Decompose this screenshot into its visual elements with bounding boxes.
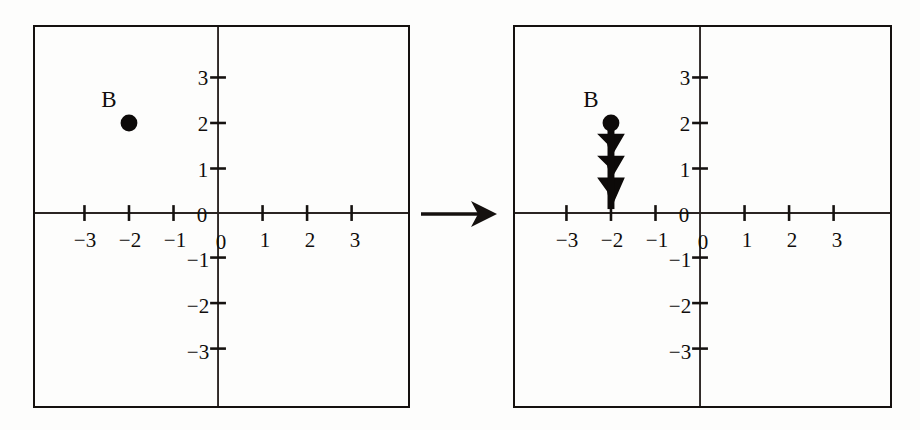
right-arrow-icon <box>421 196 497 232</box>
y-tick-label-3: 3 <box>680 68 691 89</box>
y-tick-label-1: 1 <box>198 160 209 181</box>
x-tick-label--3: −3 <box>74 230 96 251</box>
x-tick-label--3: −3 <box>556 230 578 251</box>
x-tick-label--2: −2 <box>601 230 623 251</box>
point-label-B: B <box>101 88 116 111</box>
x-tick-label-2: 2 <box>787 230 798 251</box>
x-tick-label--1: −1 <box>164 230 186 251</box>
y-tick-label-0: 0 <box>197 205 208 226</box>
y-tick-label--3: −3 <box>187 342 209 363</box>
coordinate-plane-before: 3 2 1 0 −1 −2 −3 −3 −2 −1 0 1 2 3 B <box>33 25 410 408</box>
x-tick-label-0: 0 <box>698 232 709 253</box>
point-B-marker <box>121 115 138 132</box>
y-tick-label--2: −2 <box>669 296 691 317</box>
x-tick-label-3: 3 <box>350 230 361 251</box>
y-tick-label--1: −1 <box>669 250 691 271</box>
x-tick-label--2: −2 <box>119 230 141 251</box>
y-tick-label-0: 0 <box>679 205 690 226</box>
y-tick-label-2: 2 <box>680 114 691 135</box>
translation-arrow-down <box>597 130 625 209</box>
plot-area-after: 3 2 1 0 −1 −2 −3 −3 −2 −1 0 1 2 3 B <box>515 27 890 406</box>
y-tick-label-3: 3 <box>198 68 209 89</box>
figure-stage: 3 2 1 0 −1 −2 −3 −3 −2 −1 0 1 2 3 B <box>0 0 920 430</box>
y-tick-label-1: 1 <box>680 160 691 181</box>
x-tick-label-1: 1 <box>260 230 271 251</box>
y-tick-label--1: −1 <box>187 250 209 271</box>
x-tick-label-3: 3 <box>832 230 843 251</box>
x-tick-label--1: −1 <box>646 230 668 251</box>
x-tick-label-2: 2 <box>305 230 316 251</box>
y-tick-label--3: −3 <box>669 342 691 363</box>
point-B-marker <box>603 115 620 132</box>
plot-area-before: 3 2 1 0 −1 −2 −3 −3 −2 −1 0 1 2 3 B <box>35 27 408 406</box>
x-tick-label-0: 0 <box>216 232 227 253</box>
x-tick-label-1: 1 <box>742 230 753 251</box>
y-tick-label-2: 2 <box>198 114 209 135</box>
y-tick-label--2: −2 <box>187 296 209 317</box>
point-label-B: B <box>583 88 598 111</box>
coordinate-plane-after: 3 2 1 0 −1 −2 −3 −3 −2 −1 0 1 2 3 B <box>513 25 892 408</box>
